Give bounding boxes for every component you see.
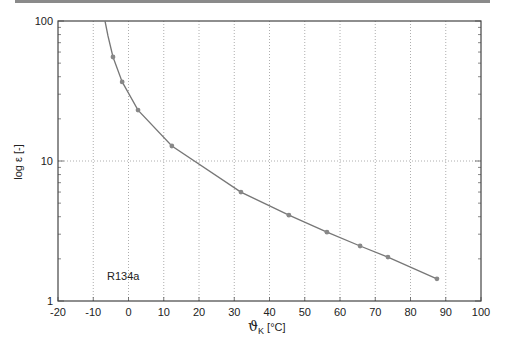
x-tick-label: 10: [158, 306, 170, 318]
data-curve: [105, 21, 437, 279]
y-tick-label: 1: [47, 295, 53, 307]
grid-lines: [58, 21, 481, 301]
chart: -20-100102030405060708090100 110100 R134…: [0, 0, 505, 346]
data-point: [239, 190, 244, 195]
series-annotation: R134a: [107, 270, 140, 282]
x-tick-label: 30: [228, 306, 240, 318]
data-point: [325, 230, 330, 235]
data-point: [358, 244, 363, 249]
x-tick-label: -10: [85, 306, 101, 318]
y-tick-label: 100: [35, 15, 53, 27]
x-tick-label: 70: [369, 306, 381, 318]
data-markers: [111, 55, 440, 282]
x-tick-label: 60: [334, 306, 346, 318]
x-tick-label: 0: [125, 306, 131, 318]
y-axis-label: log ε [-]: [12, 144, 24, 179]
data-point: [435, 276, 440, 281]
x-tick-label: 50: [299, 306, 311, 318]
x-axis-label: ϑK [°C]: [248, 318, 286, 336]
x-tick-label: 100: [472, 306, 490, 318]
x-tick-label: 40: [263, 306, 275, 318]
y-tick-label: 10: [41, 155, 53, 167]
data-point: [120, 80, 125, 85]
x-label-unit: [°C]: [264, 321, 286, 333]
data-point: [136, 108, 141, 113]
data-point: [169, 144, 174, 149]
x-tick-label: 20: [193, 306, 205, 318]
y-tick-labels: 110100: [35, 15, 53, 307]
x-tick-label: -20: [50, 306, 66, 318]
data-point: [286, 213, 291, 218]
x-tick-label: 90: [440, 306, 452, 318]
data-point: [111, 55, 116, 60]
x-label-symbol: ϑ: [248, 318, 258, 334]
x-tick-labels: -20-100102030405060708090100: [50, 306, 490, 318]
x-tick-label: 80: [404, 306, 416, 318]
data-point: [386, 255, 391, 260]
